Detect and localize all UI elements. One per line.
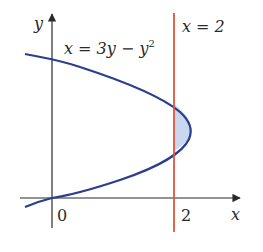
curve-equation-label: x = 3y − y2 bbox=[64, 38, 155, 58]
y-axis-label: y bbox=[33, 14, 44, 33]
curve-equation-exponent: 2 bbox=[148, 38, 154, 49]
x-axis-label: x bbox=[231, 205, 240, 224]
line-equation-label: x = 2 bbox=[182, 17, 225, 36]
plot-diagram: y x 0 2 x = 2 x = 3y − y2 bbox=[0, 0, 263, 252]
origin-label: 0 bbox=[57, 206, 67, 225]
shaded-region bbox=[174, 104, 191, 151]
curve-equation-main: x = 3y − y bbox=[64, 39, 149, 58]
parabola-curve bbox=[25, 54, 191, 207]
x-tick-label-2: 2 bbox=[181, 206, 191, 225]
